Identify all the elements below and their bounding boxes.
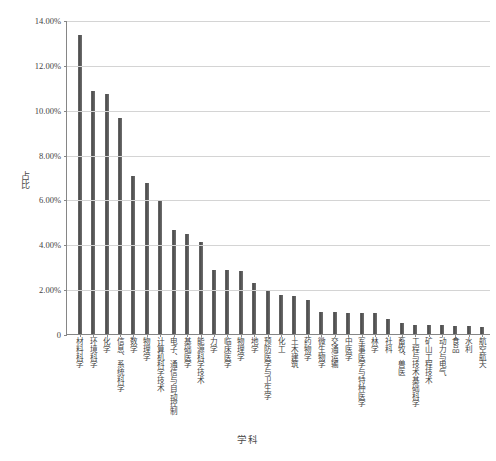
bar[interactable]	[145, 183, 149, 334]
bar-chart: 占比 02.00%4.00%6.00%8.00%10.00%12.00%14.0…	[0, 0, 496, 461]
bar[interactable]	[292, 296, 296, 334]
y-axis-tick-mark	[64, 111, 67, 112]
x-axis-tick-label: 中医学	[343, 337, 351, 360]
y-axis-tick-mark	[64, 156, 67, 157]
bar[interactable]	[319, 312, 323, 334]
bar[interactable]	[333, 312, 337, 334]
x-axis-title: 学科	[0, 432, 496, 446]
x-axis-tick-label: 食品	[450, 337, 458, 353]
x-axis-tick-label: 地学	[249, 337, 257, 353]
x-axis-tick-label: 电子、通信与自动控制	[169, 337, 177, 415]
y-axis-tick-label: 14.00%	[35, 17, 61, 26]
x-axis-tick-label: 航空航天	[477, 337, 485, 368]
x-axis-tick-label: 交通运输	[330, 337, 338, 368]
y-axis-tick-mark	[64, 200, 67, 201]
plot-area	[66, 21, 490, 335]
bar[interactable]	[118, 118, 122, 334]
bar[interactable]	[199, 242, 203, 334]
bar[interactable]	[105, 94, 109, 334]
x-axis-tick-label: 土木建筑	[289, 337, 297, 368]
x-axis-tick-label: 力学	[209, 337, 217, 353]
y-axis-tick-label: 12.00%	[35, 61, 61, 70]
x-axis-tick-label: 矿山工程技术	[424, 337, 432, 384]
gridline	[67, 21, 490, 22]
x-axis-tick-label: 基础医学	[182, 337, 190, 368]
bar[interactable]	[279, 295, 283, 334]
bar[interactable]	[239, 271, 243, 334]
y-axis-tick-label: 8.00%	[39, 151, 61, 160]
x-axis-tick-label: 环境科学	[88, 337, 96, 368]
y-axis-tick-mark	[64, 335, 67, 336]
bar[interactable]	[158, 200, 162, 334]
y-axis-tick-mark	[64, 290, 67, 291]
gridline	[67, 200, 490, 201]
y-axis-tick-label: 10.00%	[35, 106, 61, 115]
x-axis-tick-label: 物理学	[236, 337, 244, 360]
y-axis-tick-mark	[64, 21, 67, 22]
y-axis-tick-label: 0	[57, 331, 61, 340]
bar[interactable]	[427, 325, 431, 334]
x-axis-tick-label: 林学	[370, 337, 378, 353]
x-axis-tick-label: 动力与电气	[437, 337, 445, 376]
y-axis-tick-label: 2.00%	[39, 286, 61, 295]
x-axis-tick-label: 数学	[128, 337, 136, 353]
bar[interactable]	[400, 323, 404, 334]
bar[interactable]	[440, 325, 444, 334]
y-axis-tick-mark	[64, 245, 67, 246]
y-axis-tick-labels: 02.00%4.00%6.00%8.00%10.00%12.00%14.00%	[18, 0, 64, 340]
x-axis-tick-label: 社科	[383, 337, 391, 353]
x-axis-tick-label: 临床医学	[222, 337, 230, 368]
bar[interactable]	[386, 319, 390, 334]
bar[interactable]	[225, 270, 229, 334]
bar[interactable]	[360, 313, 364, 334]
bar[interactable]	[185, 234, 189, 334]
bar[interactable]	[91, 91, 95, 334]
x-axis-tick-labels: 材料科学环境科学化学信息、系统科学数学物理学计算机科学技术电子、通信与自动控制基…	[66, 337, 490, 429]
bar[interactable]	[373, 313, 377, 334]
x-axis-tick-label: 化工	[276, 337, 284, 353]
bar[interactable]	[413, 325, 417, 334]
x-axis-tick-label: 信息、系统科学	[115, 337, 123, 392]
y-axis-tick-label: 6.00%	[39, 196, 61, 205]
gridline	[67, 156, 490, 157]
x-axis-tick-label: 水利	[464, 337, 472, 353]
y-axis-tick-mark	[64, 66, 67, 67]
y-axis-tick-label: 4.00%	[39, 241, 61, 250]
gridline	[67, 66, 490, 67]
x-axis-tick-label: 军事医学与特种医学	[357, 337, 365, 407]
bar[interactable]	[346, 313, 350, 334]
bar[interactable]	[453, 326, 457, 334]
x-axis-tick-label: 化学	[102, 337, 110, 353]
x-axis-tick-label: 工程与技术基础科学	[410, 337, 418, 407]
bar[interactable]	[467, 326, 471, 334]
x-axis-tick-label: 畜牧、兽医	[397, 337, 405, 376]
x-axis-tick-label: 微生物学	[316, 337, 324, 368]
gridline	[67, 111, 490, 112]
bar[interactable]	[480, 327, 484, 334]
x-axis-tick-label: 能源科学技术	[196, 337, 204, 384]
bar-series	[67, 21, 490, 334]
gridline	[67, 290, 490, 291]
bar[interactable]	[306, 300, 310, 334]
x-axis-tick-label: 物理学	[142, 337, 150, 360]
x-axis-tick-label: 材料科学	[75, 337, 83, 368]
gridline	[67, 245, 490, 246]
x-axis-tick-label: 药物学	[303, 337, 311, 360]
x-axis-tick-label: 预防医学与卫生学	[263, 337, 271, 399]
bar[interactable]	[212, 270, 216, 334]
x-axis-tick-label: 计算机科学技术	[155, 337, 163, 392]
bar[interactable]	[266, 290, 270, 334]
